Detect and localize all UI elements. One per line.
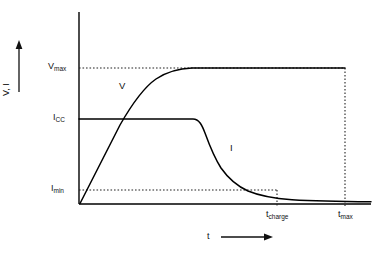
y-tick-imin-sub: min xyxy=(54,187,64,194)
y-tick-vmax-sub: max xyxy=(54,65,66,72)
y-tick-icc-sub: CC xyxy=(56,116,65,123)
current-curve xyxy=(79,119,371,202)
x-tick-tcharge-sub: charge xyxy=(269,213,289,220)
x-tick-tmax-sub: max xyxy=(341,213,353,220)
current-curve-label: I xyxy=(230,143,233,153)
x-tick-label-tcharge: tcharge xyxy=(266,210,288,219)
y-axis-title: V, I xyxy=(1,83,11,96)
chart-figure: Vmax ICC Imin tcharge tmax V I V, I t xyxy=(0,0,381,255)
y-axis-arrow-icon xyxy=(16,40,23,92)
y-tick-label-imin: Imin xyxy=(51,184,64,193)
x-tick-label-tmax: tmax xyxy=(338,210,353,219)
voltage-curve-label: V xyxy=(119,81,125,91)
chart-plot-area xyxy=(0,0,381,255)
y-tick-label-vmax: Vmax xyxy=(48,62,66,71)
y-tick-label-icc: ICC xyxy=(53,113,65,122)
x-axis-arrow-icon xyxy=(221,234,273,241)
x-axis-title: t xyxy=(207,232,210,241)
